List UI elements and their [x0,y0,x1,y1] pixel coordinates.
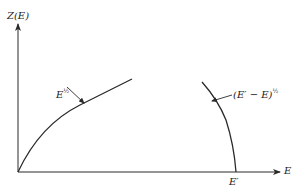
y-axis-label: Z(E) [7,11,29,21]
reverse-curve-exponent: ½ [272,87,278,94]
x-tick-label-e-prime: E′ [229,177,239,187]
x-axis-label: E [284,166,291,176]
reverse-curve-label: (E′ − E)½ [233,88,278,100]
sqrt-curve-exponent: ½ [63,87,69,94]
sqrt-curve [18,79,132,172]
sqrt-pointer-arrow [67,87,84,103]
reverse-curve-base: (E′ − E) [233,89,272,100]
sqrt-curve-label: E½ [56,88,69,100]
